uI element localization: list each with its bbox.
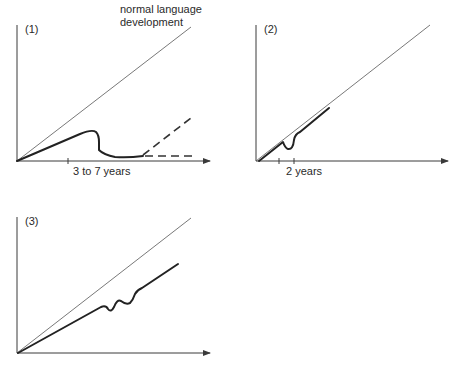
panel-1: (1) normal language development 3 to 7 y… (17, 3, 210, 177)
panel-2: (2) 2 years (256, 23, 448, 177)
normal-development-line (17, 27, 191, 161)
x-axis-label: 3 to 7 years (73, 165, 131, 177)
panel-label: (1) (25, 23, 38, 35)
normal-development-line (17, 218, 191, 353)
normal-development-line (256, 25, 430, 161)
panel-label: (3) (25, 215, 38, 227)
regression-curve (17, 131, 143, 161)
x-axis-label: 2 years (286, 165, 323, 177)
fluctuating-curve (18, 264, 178, 353)
panel-label: (2) (264, 23, 277, 35)
dip-curve (259, 108, 329, 161)
annotation-line1: normal language (120, 3, 202, 15)
diagram-canvas: (1) normal language development 3 to 7 y… (0, 0, 465, 369)
annotation-line2: development (120, 16, 183, 28)
recovery-dashed-line (143, 118, 191, 155)
panel-3: (3) (17, 215, 210, 353)
